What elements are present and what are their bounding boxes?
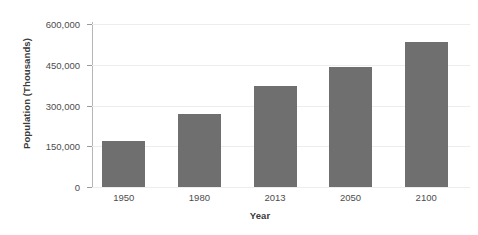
y-axis-title: Population (Thousands) — [21, 6, 32, 182]
x-tick-label-1950: 1950 — [113, 192, 134, 203]
y-tick-label-600000: 600,000 — [10, 19, 80, 30]
bar-2013 — [254, 86, 297, 187]
bar-1950 — [102, 141, 145, 187]
bar-chart: Population (Thousands) 600,000 450,000 3… — [0, 0, 478, 235]
x-tick-label-1980: 1980 — [189, 192, 210, 203]
y-tick-label-0: 0 — [10, 182, 80, 193]
bar-1980 — [178, 114, 221, 187]
gridline-0 — [92, 187, 470, 188]
bar-2050 — [329, 67, 372, 187]
x-tick-label-2050: 2050 — [340, 192, 361, 203]
plot-area — [92, 24, 470, 187]
x-tick-label-2013: 2013 — [264, 192, 285, 203]
bar-2100 — [405, 42, 448, 187]
y-tick-label-150000: 150,000 — [10, 141, 80, 152]
x-axis-title: Year — [90, 210, 430, 221]
x-tick-label-2100: 2100 — [416, 192, 437, 203]
y-tick-label-300000: 300,000 — [10, 101, 80, 112]
y-tick-label-450000: 450,000 — [10, 60, 80, 71]
gridline-600000 — [92, 24, 470, 25]
